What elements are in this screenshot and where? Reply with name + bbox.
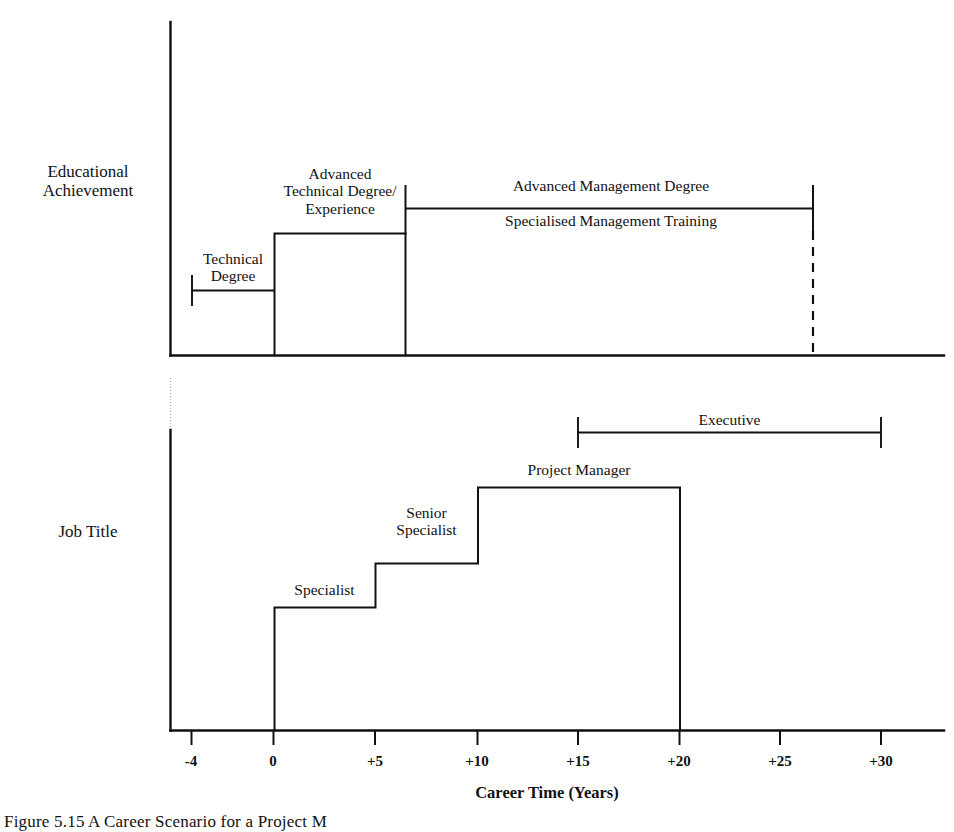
label-technical-degree-line1: Technical	[178, 250, 288, 267]
label-advanced-technical-line2: Technical Degree/	[258, 182, 422, 199]
label-advanced-management-degree: Advanced Management Degree	[409, 177, 813, 194]
tick-label-plus-15: +15	[548, 753, 608, 770]
label-specialist: Specialist	[274, 581, 375, 598]
label-advanced-technical-degree: Advanced Technical Degree/ Experience	[258, 165, 422, 217]
row-label-educational-achievement: Educational Achievement	[18, 162, 158, 200]
label-advanced-technical-line3: Experience	[258, 200, 422, 217]
tick-label-plus-10: +10	[447, 753, 507, 770]
label-advanced-technical-line1: Advanced	[258, 165, 422, 182]
label-senior-specialist-line1: Senior	[375, 504, 478, 521]
label-executive: Executive	[578, 411, 881, 428]
row-label-educational-line2: Achievement	[18, 181, 158, 200]
figure-caption: Figure 5.15 A Career Scenario for a Proj…	[4, 812, 327, 832]
row-label-job-title: Job Title	[18, 522, 158, 541]
label-specialised-management-training: Specialised Management Training	[409, 212, 813, 229]
tick-label-0: 0	[243, 753, 303, 770]
label-senior-specialist-line2: Specialist	[375, 521, 478, 538]
x-axis-title: Career Time (Years)	[427, 783, 667, 803]
label-senior-specialist: Senior Specialist	[375, 504, 478, 539]
tick-label-plus-5: +5	[345, 753, 405, 770]
tick-label-minus-4: -4	[161, 753, 221, 770]
tick-label-plus-25: +25	[750, 753, 810, 770]
row-label-educational-line1: Educational	[18, 162, 158, 181]
label-technical-degree-line2: Degree	[178, 267, 288, 284]
step-advanced-technical-degree	[275, 234, 406, 356]
label-project-manager: Project Manager	[478, 461, 680, 478]
tick-label-plus-20: +20	[649, 753, 709, 770]
axis-ticks	[192, 731, 882, 746]
label-technical-degree: Technical Degree	[178, 250, 288, 285]
tick-label-plus-30: +30	[851, 753, 911, 770]
